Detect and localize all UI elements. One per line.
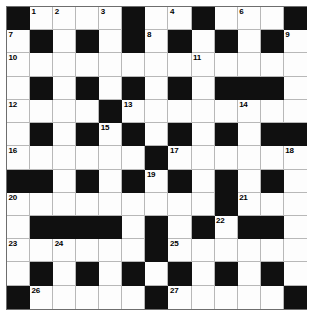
crossword-cell[interactable] [30,239,53,262]
crossword-cell[interactable] [53,146,76,169]
crossword-cell[interactable] [53,53,76,76]
crossword-cell[interactable]: 25 [168,239,191,262]
crossword-cell[interactable] [192,262,215,285]
crossword-cell[interactable] [122,146,145,169]
crossword-cell[interactable] [7,216,30,239]
crossword-cell[interactable] [30,100,53,123]
crossword-cell[interactable] [99,286,122,309]
crossword-cell[interactable] [192,100,215,123]
crossword-cell[interactable] [53,193,76,216]
crossword-cell[interactable] [238,146,261,169]
crossword-cell[interactable] [238,123,261,146]
crossword-cell[interactable] [284,239,307,262]
crossword-cell[interactable] [238,286,261,309]
crossword-cell[interactable] [99,239,122,262]
crossword-cell[interactable]: 4 [168,7,191,30]
crossword-cell[interactable] [284,100,307,123]
crossword-cell[interactable] [168,193,191,216]
crossword-cell[interactable] [192,30,215,53]
crossword-cell[interactable] [284,193,307,216]
crossword-cell[interactable] [76,53,99,76]
crossword-cell[interactable] [145,7,168,30]
crossword-cell[interactable] [192,146,215,169]
crossword-cell[interactable] [261,239,284,262]
crossword-cell[interactable] [238,30,261,53]
crossword-cell[interactable] [284,77,307,100]
crossword-cell[interactable]: 17 [168,146,191,169]
crossword-cell[interactable] [122,239,145,262]
crossword-cell[interactable]: 3 [99,7,122,30]
crossword-cell[interactable]: 9 [284,30,307,53]
crossword-cell[interactable] [53,30,76,53]
crossword-cell[interactable] [238,262,261,285]
crossword-cell[interactable] [76,193,99,216]
crossword-cell[interactable]: 16 [7,146,30,169]
crossword-cell[interactable] [215,100,238,123]
crossword-cell[interactable] [145,123,168,146]
crossword-cell[interactable] [192,123,215,146]
crossword-cell[interactable]: 23 [7,239,30,262]
crossword-cell[interactable]: 14 [238,100,261,123]
crossword-cell[interactable]: 6 [238,7,261,30]
crossword-cell[interactable] [261,193,284,216]
crossword-cell[interactable] [53,286,76,309]
crossword-cell[interactable] [168,100,191,123]
crossword-cell[interactable] [145,53,168,76]
crossword-cell[interactable] [261,286,284,309]
crossword-cell[interactable] [122,216,145,239]
crossword-cell[interactable] [215,7,238,30]
crossword-cell[interactable] [76,286,99,309]
crossword-cell[interactable] [53,170,76,193]
crossword-cell[interactable]: 22 [215,216,238,239]
crossword-cell[interactable] [99,170,122,193]
crossword-cell[interactable] [99,146,122,169]
crossword-cell[interactable]: 19 [145,170,168,193]
crossword-cell[interactable] [192,193,215,216]
crossword-cell[interactable] [238,53,261,76]
crossword-cell[interactable] [53,262,76,285]
crossword-cell[interactable] [76,146,99,169]
crossword-cell[interactable] [284,170,307,193]
crossword-cell[interactable] [7,262,30,285]
crossword-cell[interactable] [284,53,307,76]
crossword-cell[interactable] [30,146,53,169]
crossword-cell[interactable] [215,53,238,76]
crossword-cell[interactable]: 24 [53,239,76,262]
crossword-cell[interactable] [30,53,53,76]
crossword-cell[interactable] [7,123,30,146]
crossword-cell[interactable] [30,193,53,216]
crossword-cell[interactable] [122,53,145,76]
crossword-cell[interactable] [215,286,238,309]
crossword-cell[interactable] [215,146,238,169]
crossword-cell[interactable] [53,100,76,123]
crossword-cell[interactable]: 15 [99,123,122,146]
crossword-cell[interactable]: 1 [30,7,53,30]
crossword-cell[interactable]: 26 [30,286,53,309]
crossword-cell[interactable] [145,77,168,100]
crossword-cell[interactable] [192,170,215,193]
crossword-cell[interactable] [145,100,168,123]
crossword-cell[interactable] [238,239,261,262]
crossword-cell[interactable] [192,239,215,262]
crossword-cell[interactable] [76,239,99,262]
crossword-cell[interactable] [99,193,122,216]
crossword-cell[interactable]: 21 [238,193,261,216]
crossword-cell[interactable] [168,53,191,76]
crossword-cell[interactable]: 13 [122,100,145,123]
crossword-cell[interactable]: 20 [7,193,30,216]
crossword-cell[interactable] [238,170,261,193]
crossword-cell[interactable] [192,286,215,309]
crossword-cell[interactable] [99,53,122,76]
crossword-cell[interactable]: 7 [7,30,30,53]
crossword-cell[interactable] [76,7,99,30]
crossword-cell[interactable] [99,30,122,53]
crossword-cell[interactable]: 12 [7,100,30,123]
crossword-cell[interactable] [215,239,238,262]
crossword-cell[interactable] [122,193,145,216]
crossword-cell[interactable] [261,146,284,169]
crossword-cell[interactable] [99,77,122,100]
crossword-cell[interactable]: 27 [168,286,191,309]
crossword-cell[interactable] [284,216,307,239]
crossword-cell[interactable] [76,100,99,123]
crossword-cell[interactable] [284,262,307,285]
